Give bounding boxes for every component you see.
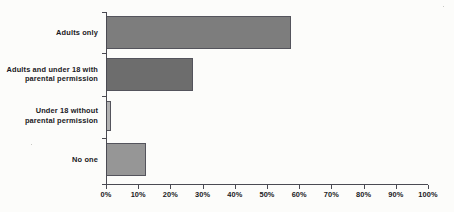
category-label-line: parental permission: [0, 74, 98, 84]
horizontal-bar-chart: Adults only Adults and under 18 withpare…: [0, 0, 454, 212]
x-axis-tick-0: [106, 185, 107, 189]
plot-area: [106, 12, 428, 184]
x-axis-tick-label-0: 0%: [91, 190, 121, 199]
x-axis-tick-label-7: 70%: [316, 190, 346, 199]
x-axis-tick-label-9: 90%: [381, 190, 411, 199]
x-axis-tick-label-6: 60%: [284, 190, 314, 199]
category-label-line: Adults and under 18 with: [0, 65, 98, 75]
x-axis-tick-3: [203, 185, 204, 189]
y-axis-tick-3: [102, 138, 106, 139]
x-axis-tick-label-10: 100%: [413, 190, 443, 199]
x-axis-tick-4: [235, 185, 236, 189]
y-axis-line: [106, 12, 107, 184]
x-axis-tick-2: [170, 185, 171, 189]
x-axis-tick-label-2: 20%: [155, 190, 185, 199]
category-label-line: No one: [0, 155, 98, 165]
bar-1: [106, 58, 193, 91]
category-label-line: Adults only: [0, 28, 98, 38]
x-axis-tick-label-5: 50%: [252, 190, 282, 199]
x-axis-tick-9: [396, 185, 397, 189]
category-label-adults-only: Adults only: [0, 28, 98, 38]
paper-speck: [443, 6, 444, 7]
category-label-under-18-without-parental-permission: Under 18 withoutparental permission: [0, 106, 98, 125]
y-axis-tick-2: [102, 96, 106, 97]
category-label-adults-and-under-18-with-parental-permission: Adults and under 18 withparental permiss…: [0, 65, 98, 84]
x-axis-tick-7: [331, 185, 332, 189]
x-axis-tick-label-4: 40%: [220, 190, 250, 199]
bar-3: [106, 143, 146, 176]
y-axis-tick-0: [102, 12, 106, 13]
x-axis-tick-1: [138, 185, 139, 189]
x-axis-tick-6: [299, 185, 300, 189]
x-axis-tick-10: [428, 185, 429, 189]
x-axis-tick-label-8: 80%: [349, 190, 379, 199]
paper-speck: [31, 144, 32, 145]
x-axis-tick-5: [267, 185, 268, 189]
x-axis-tick-label-1: 10%: [123, 190, 153, 199]
y-axis-tick-1: [102, 53, 106, 54]
category-label-no-one: No one: [0, 155, 98, 165]
category-label-line: Under 18 without: [0, 106, 98, 116]
x-axis-tick-label-3: 30%: [188, 190, 218, 199]
bar-0: [106, 16, 291, 49]
category-label-line: parental permission: [0, 116, 98, 126]
x-axis-tick-8: [364, 185, 365, 189]
